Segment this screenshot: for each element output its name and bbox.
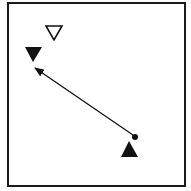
filled-down-triangle-icon bbox=[25, 47, 42, 62]
diagram-frame bbox=[8, 3, 185, 186]
hollow-down-triangle-icon bbox=[46, 26, 62, 40]
origin-dot-icon bbox=[132, 134, 138, 140]
movement-arrow bbox=[35, 68, 133, 135]
diagram-canvas bbox=[0, 0, 191, 191]
filled-up-triangle-icon bbox=[121, 141, 138, 157]
